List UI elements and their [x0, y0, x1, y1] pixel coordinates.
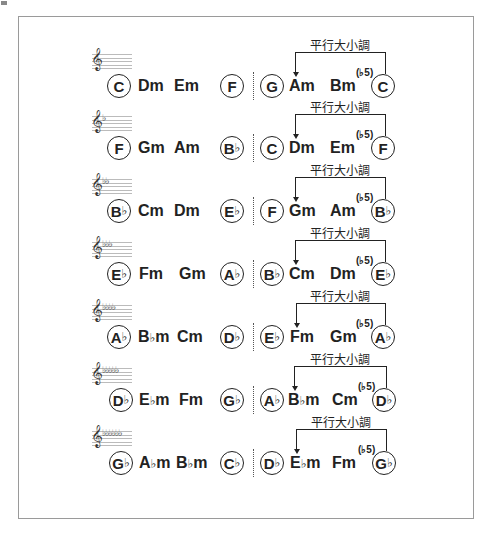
circled-chord: G♭: [220, 388, 244, 412]
chord-label: B♭m: [176, 453, 207, 474]
scan-artifact: [1, 1, 7, 5]
circled-chord: E♭: [371, 262, 395, 286]
key-signature-staff: 𝄞♭♭♭: [92, 242, 132, 258]
chord-label: Dm: [330, 264, 356, 284]
key-flats: ♭♭♭: [102, 239, 112, 249]
chord-label: Fm: [290, 327, 314, 347]
relative-key-label: 平行大小調: [310, 36, 370, 53]
relative-key-bracket: [295, 240, 386, 262]
circled-chord: D♭: [372, 388, 396, 412]
circled-chord: B♭: [107, 199, 131, 223]
circled-chord: D♭: [220, 325, 244, 349]
circled-chord: C: [260, 136, 284, 160]
chord-label: Gm: [330, 327, 357, 347]
relative-key-bracket: [294, 366, 387, 388]
relative-key-bracket: [295, 177, 386, 199]
circled-chord: D♭: [109, 388, 133, 412]
relative-key-bracket: [296, 429, 387, 451]
chord-label: Am: [289, 76, 315, 96]
circled-chord: G♭: [109, 451, 133, 475]
circled-chord: B♭: [371, 199, 395, 223]
circled-chord: C: [107, 74, 131, 98]
key-flats: ♭♭: [102, 176, 109, 186]
arrow-down-icon: [293, 72, 299, 77]
circled-chord: B♭: [220, 136, 244, 160]
chord-label: Fm: [332, 453, 356, 473]
chord-label: Dm: [174, 201, 200, 221]
chord-label: Dm: [289, 138, 315, 158]
circled-chord: A♭: [260, 388, 284, 412]
relative-key-label: 平行大小調: [310, 287, 370, 304]
chord-label: Cm: [289, 264, 315, 284]
chord-label: Gm: [289, 201, 316, 221]
chord-label: Cm: [177, 327, 203, 347]
chord-label: Dm: [138, 76, 164, 96]
chord-label: Gm: [179, 264, 206, 284]
section-divider: [253, 449, 254, 477]
chord-label: Bm: [330, 76, 356, 96]
section-divider: [253, 134, 254, 162]
section-divider: [253, 197, 254, 225]
key-flats: ♭♭♭♭♭: [102, 365, 118, 375]
chord-row: 𝄞♭♭♭♭♭D♭E♭mFmG♭A♭B♭mCm(♭5)D♭平行大小調: [0, 368, 488, 432]
section-divider: [253, 386, 254, 414]
circled-chord: A♭: [371, 325, 395, 349]
chord-label: E♭m: [290, 453, 321, 474]
circled-chord: E♭: [260, 325, 284, 349]
chord-label: Fm: [139, 264, 163, 284]
relative-key-bracket: [296, 303, 386, 325]
key-signature-staff: 𝄞♭♭♭♭♭♭: [92, 431, 132, 447]
circled-chord: G: [260, 74, 284, 98]
chord-row: 𝄞CDmEmFGAmBm(♭5)C平行大小調: [0, 54, 488, 118]
chord-row: 𝄞♭♭♭♭♭♭G♭A♭mB♭mC♭D♭E♭mFm(♭5)G♭平行大小調: [0, 431, 488, 495]
chord-label: B♭m: [138, 327, 169, 348]
relative-key-bracket: [295, 52, 386, 74]
chord-label: Cm: [332, 390, 358, 410]
relative-key-bracket: [295, 114, 386, 136]
relative-key-label: 平行大小調: [310, 350, 370, 367]
circled-chord: G♭: [372, 451, 396, 475]
chord-label: B♭m: [288, 390, 319, 411]
section-divider: [253, 72, 254, 100]
section-divider: [253, 323, 254, 351]
key-flats: ♭: [102, 113, 105, 123]
key-signature-staff: 𝄞: [92, 54, 132, 70]
relative-key-label: 平行大小調: [310, 224, 370, 241]
circled-chord: A♭: [107, 325, 131, 349]
key-signature-staff: 𝄞♭♭♭♭♭: [92, 368, 132, 384]
chord-label: Cm: [138, 201, 164, 221]
arrow-down-icon: [294, 323, 300, 328]
chord-label: Am: [174, 138, 200, 158]
chord-row: 𝄞♭♭♭♭A♭B♭mCmD♭E♭FmGm(♭5)A♭平行大小調: [0, 305, 488, 369]
circled-chord: E♭: [220, 199, 244, 223]
circled-chord: F: [260, 199, 284, 223]
circled-chord: A♭: [220, 262, 244, 286]
chord-label: E♭m: [139, 390, 170, 411]
chord-row: 𝄞♭♭♭E♭FmGmA♭B♭CmDm(♭5)E♭平行大小調: [0, 242, 488, 306]
arrow-down-icon: [293, 134, 299, 139]
arrow-down-icon: [294, 449, 300, 454]
chord-row: 𝄞♭FGmAmB♭CDmEm(♭5)F平行大小調: [0, 116, 488, 180]
circled-chord: C: [371, 74, 395, 98]
treble-clef-icon: 𝄞: [91, 48, 103, 68]
circled-chord: B♭: [260, 262, 284, 286]
relative-key-label: 平行大小調: [310, 161, 370, 178]
chord-label: Em: [330, 138, 355, 158]
circled-chord: D♭: [260, 451, 284, 475]
chord-label: Am: [330, 201, 356, 221]
arrow-down-icon: [293, 197, 299, 202]
circled-chord: F: [220, 74, 244, 98]
relative-key-label: 平行大小調: [311, 413, 371, 430]
key-flats: ♭♭♭♭♭♭: [102, 428, 121, 438]
arrow-down-icon: [292, 386, 298, 391]
circled-chord: F: [371, 136, 395, 160]
chord-label: Em: [174, 76, 199, 96]
circled-chord: F: [107, 136, 131, 160]
arrow-down-icon: [293, 260, 299, 265]
chord-row: 𝄞♭♭B♭CmDmE♭FGmAm(♭5)B♭平行大小調: [0, 179, 488, 243]
section-divider: [253, 260, 254, 288]
key-signature-staff: 𝄞♭♭♭♭: [92, 305, 132, 321]
key-signature-staff: 𝄞♭: [92, 116, 132, 132]
key-flats: ♭♭♭♭: [102, 302, 115, 312]
circled-chord: C♭: [220, 451, 244, 475]
